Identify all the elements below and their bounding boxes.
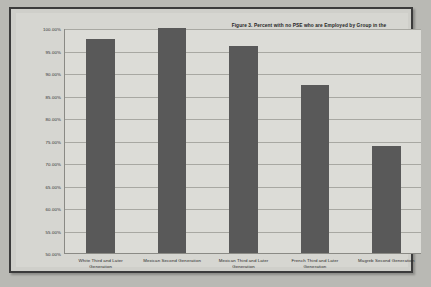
y-axis-tick-label: 75.00%: [46, 139, 62, 144]
y-axis-tick-label: 60.00%: [46, 207, 62, 212]
bar: [372, 146, 401, 253]
figure-frame: Figure 3. Percent with no PSE who are Em…: [9, 7, 413, 273]
x-axis-category-label-line: Magreb Second Generation: [351, 258, 422, 264]
y-axis-tick-label: 65.00%: [46, 184, 62, 189]
y-axis-tick-label: 80.00%: [46, 117, 62, 122]
y-axis-tick-label: 55.00%: [46, 229, 62, 234]
x-axis-category-label-line: Generation: [208, 264, 279, 270]
chart-canvas: Figure 3. Percent with no PSE who are Em…: [16, 13, 408, 267]
y-axis-tick-label: 95.00%: [46, 49, 62, 54]
y-axis-tick-label: 100.00%: [43, 27, 61, 32]
x-axis-category-label: Mexican Third and LaterGeneration: [208, 258, 279, 270]
x-axis-category-label: French Third and LaterGeneration: [279, 258, 350, 270]
bar: [86, 39, 115, 253]
x-axis-category-label-line: Generation: [279, 264, 350, 270]
x-axis-category-label: White Third and LaterGeneration: [65, 258, 136, 270]
x-axis-category-label: Magreb Second Generation: [351, 258, 422, 264]
y-axis-tick-label: 90.00%: [46, 72, 62, 77]
bar: [158, 28, 187, 253]
y-axis-tick-label: 85.00%: [46, 94, 62, 99]
x-axis-category-label-line: Mexican Second Generation: [136, 258, 207, 264]
plot-area: 100.00%95.00%90.00%85.00%80.00%75.00%70.…: [64, 29, 421, 254]
x-axis-category-label: Mexican Second Generation: [136, 258, 207, 264]
y-axis-tick-label: 50.00%: [46, 252, 62, 257]
bar: [301, 85, 330, 253]
bar: [229, 46, 258, 253]
gridline: [65, 254, 421, 255]
y-axis-tick-label: 70.00%: [46, 162, 62, 167]
x-axis-category-label-line: Generation: [65, 264, 136, 270]
gridline: [65, 29, 421, 30]
screenshot-root: Figure 3. Percent with no PSE who are Em…: [0, 0, 431, 287]
